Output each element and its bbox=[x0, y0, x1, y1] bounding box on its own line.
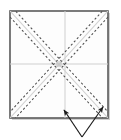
origami-diagram-svg bbox=[0, 0, 121, 140]
origami-diagram bbox=[0, 0, 121, 140]
center-intersection bbox=[56, 61, 62, 67]
